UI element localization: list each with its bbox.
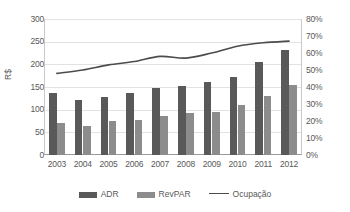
y-axis-title: R$ bbox=[4, 69, 13, 80]
bar-adr-2004 bbox=[75, 100, 83, 155]
legend-label-revpar: RevPAR bbox=[159, 190, 191, 199]
legend-item-revpar: RevPAR bbox=[137, 190, 191, 199]
secondary-y-axis-tick-60%: 60% bbox=[306, 49, 350, 58]
x-axis-tick-2007: 2007 bbox=[147, 160, 173, 169]
bar-revpar-2003 bbox=[57, 123, 65, 155]
legend-item-ocupacao: Ocupação bbox=[209, 190, 272, 199]
x-axis-tick-2011: 2011 bbox=[250, 160, 276, 169]
y-axis-tick-100: 100 bbox=[4, 105, 44, 114]
x-axis-tick-2012: 2012 bbox=[276, 160, 302, 169]
bar-revpar-2012 bbox=[289, 85, 297, 155]
x-axis-tick-2005: 2005 bbox=[96, 160, 122, 169]
y-axis-tick-250: 250 bbox=[4, 37, 44, 46]
y-axis-tick-150: 150 bbox=[4, 83, 44, 92]
secondary-y-axis-tick-30%: 30% bbox=[306, 100, 350, 109]
bar-revpar-2010 bbox=[238, 105, 246, 155]
legend-item-adr: ADR bbox=[79, 190, 119, 199]
bar-revpar-2005 bbox=[109, 121, 117, 155]
legend-label-adr: ADR bbox=[101, 190, 119, 199]
legend-swatch-adr-icon bbox=[79, 192, 97, 198]
bar-revpar-2008 bbox=[186, 113, 194, 155]
legend-swatch-ocupacao-icon bbox=[209, 193, 229, 194]
bar-adr-2012 bbox=[281, 50, 289, 155]
bar-adr-2008 bbox=[178, 86, 186, 155]
secondary-y-axis-tick-70%: 70% bbox=[306, 32, 350, 41]
bar-revpar-2009 bbox=[212, 112, 220, 155]
secondary-y-axis-tick-20%: 20% bbox=[306, 117, 350, 126]
bar-adr-2009 bbox=[204, 82, 212, 155]
bar-adr-2007 bbox=[152, 88, 160, 155]
bar-revpar-2004 bbox=[83, 126, 91, 155]
bar-adr-2003 bbox=[49, 93, 57, 155]
x-axis-tick-2009: 2009 bbox=[199, 160, 225, 169]
bar-adr-2011 bbox=[255, 62, 263, 155]
secondary-y-axis-tick-80%: 80% bbox=[306, 15, 350, 24]
x-axis-tick-2004: 2004 bbox=[70, 160, 96, 169]
legend-swatch-revpar-icon bbox=[137, 192, 155, 198]
bar-revpar-2011 bbox=[264, 96, 272, 155]
x-axis-tick-2006: 2006 bbox=[121, 160, 147, 169]
bar-revpar-2006 bbox=[135, 120, 143, 155]
x-axis-tick-2008: 2008 bbox=[173, 160, 199, 169]
bar-adr-2010 bbox=[230, 77, 238, 155]
chart-container: R$ 050100150200250300 0%10%20%30%40%50%6… bbox=[0, 0, 350, 212]
secondary-y-axis-tick-0%: 0% bbox=[306, 151, 350, 160]
bar-revpar-2007 bbox=[160, 116, 168, 155]
legend-label-ocupacao: Ocupação bbox=[233, 190, 272, 199]
secondary-y-axis-tick-50%: 50% bbox=[306, 66, 350, 75]
y-axis-tick-300: 300 bbox=[4, 15, 44, 24]
y-axis-tick-0: 0 bbox=[4, 151, 44, 160]
legend: ADR RevPAR Ocupação bbox=[0, 190, 350, 199]
bar-adr-2006 bbox=[126, 93, 134, 155]
secondary-y-axis-tick-40%: 40% bbox=[306, 83, 350, 92]
bar-adr-2005 bbox=[101, 97, 109, 155]
x-axis-tick-2010: 2010 bbox=[225, 160, 251, 169]
plot-area bbox=[44, 19, 302, 155]
secondary-y-axis-tick-10%: 10% bbox=[306, 134, 350, 143]
x-axis-tick-2003: 2003 bbox=[44, 160, 70, 169]
y-axis-tick-200: 200 bbox=[4, 60, 44, 69]
y-axis-tick-50: 50 bbox=[4, 128, 44, 137]
